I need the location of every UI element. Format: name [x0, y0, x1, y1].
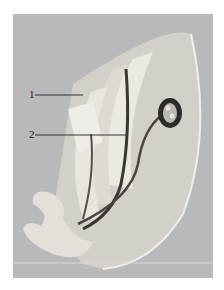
label-2: 2	[29, 129, 35, 140]
label-1: 1	[29, 89, 35, 100]
anatomical-model-photo: 1 2	[13, 14, 213, 278]
model-illustration	[13, 14, 213, 278]
